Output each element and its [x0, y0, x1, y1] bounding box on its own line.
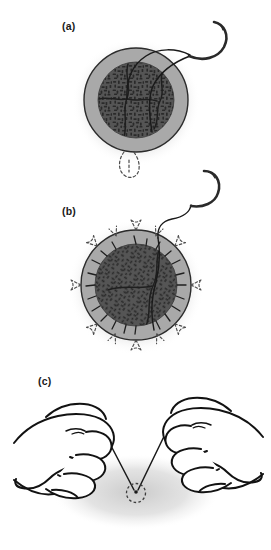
panel-b-needle-icon: [191, 171, 219, 206]
panel-a-label: (a): [62, 20, 75, 32]
panel-a: (a): [62, 20, 226, 177]
panel-c-label: (c): [38, 375, 51, 387]
surgical-figure-svg: (a): [0, 0, 271, 550]
panel-c: (c): [14, 375, 263, 530]
panel-b: (b): [62, 171, 219, 355]
panel-a-needle-icon: [189, 22, 226, 59]
panel-b-label: (b): [62, 205, 76, 217]
figure-root: (a): [0, 0, 271, 550]
